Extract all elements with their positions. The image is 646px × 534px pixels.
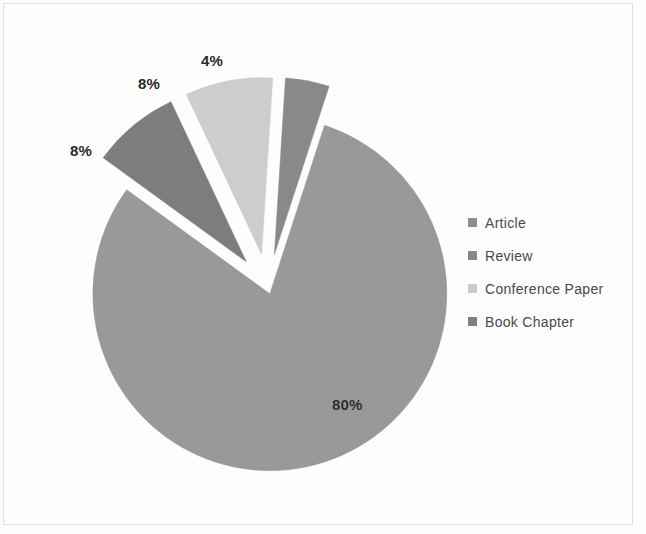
legend-label-article: Article — [485, 215, 526, 231]
legend-label-book-chapter: Book Chapter — [485, 314, 574, 330]
pie-slice-group — [93, 78, 447, 471]
legend-label-review: Review — [485, 248, 533, 264]
legend-item-book-chapter[interactable]: Book Chapter — [468, 305, 633, 338]
slice-label-book-chapter: 4% — [201, 52, 223, 69]
legend-swatch-icon-book-chapter — [468, 317, 477, 326]
legend-swatch-icon-conference-paper — [468, 284, 477, 293]
legend-swatch-icon-article — [468, 218, 477, 227]
chart-legend: Article Review Conference Paper Book Cha… — [468, 206, 633, 338]
slice-label-conference-paper: 8% — [138, 75, 160, 92]
legend-item-article[interactable]: Article — [468, 206, 633, 239]
legend-swatch-icon-review — [468, 251, 477, 260]
legend-label-conference-paper: Conference Paper — [485, 281, 603, 297]
legend-item-conference-paper[interactable]: Conference Paper — [468, 272, 633, 305]
slice-label-article: 80% — [332, 396, 363, 413]
slice-label-review: 8% — [70, 142, 92, 159]
pie-chart-figure: 80% 8% 8% 4% Article Review Conference P… — [0, 0, 646, 534]
legend-item-review[interactable]: Review — [468, 239, 633, 272]
